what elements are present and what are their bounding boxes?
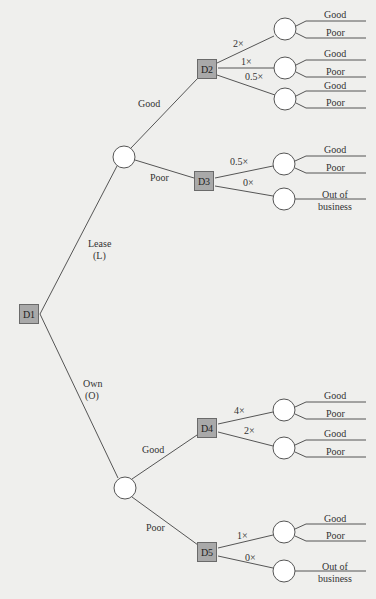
option-label-d5-0x: 0× — [245, 552, 256, 563]
decision-node-d4: D4 — [197, 418, 217, 438]
outcome-label-lease-good: Good — [138, 98, 160, 109]
terminal-label: Good — [324, 390, 346, 401]
option-label-d2-2x: 2× — [233, 38, 244, 49]
terminal-label: Poor — [326, 27, 345, 38]
terminal-label: Poor — [326, 162, 345, 173]
option-label-d4-2x: 2× — [244, 425, 255, 436]
terminal-label: Poor — [326, 97, 345, 108]
chance-node-lease — [113, 146, 135, 168]
option-label-d2-05x: 0.5× — [245, 71, 263, 82]
terminal-label: Out of — [322, 561, 348, 572]
outcome-label-lease-poor: Poor — [150, 172, 169, 183]
branch-label-own-abbr: (O) — [85, 390, 99, 401]
terminal-label: Good — [324, 144, 346, 155]
terminal-label: Poor — [326, 66, 345, 77]
tree-lines — [0, 0, 376, 599]
decision-node-d1: D1 — [19, 304, 39, 324]
terminal-label: Good — [324, 80, 346, 91]
option-label-d4-4x: 4× — [234, 405, 245, 416]
decision-node-d3: D3 — [194, 171, 214, 191]
terminal-label: Good — [324, 428, 346, 439]
terminal-label: Poor — [326, 446, 345, 457]
terminal-label: Good — [324, 9, 346, 20]
option-label-d5-1x: 1× — [237, 530, 248, 541]
branch-label-lease: Lease — [88, 238, 111, 249]
decision-node-d5: D5 — [197, 542, 217, 562]
terminal-label: Good — [324, 513, 346, 524]
outcome-label-own-poor: Poor — [146, 522, 165, 533]
branch-label-own: Own — [83, 378, 102, 389]
terminal-label: Poor — [326, 530, 345, 541]
terminal-label: business — [318, 201, 352, 212]
decision-node-d2: D2 — [197, 59, 217, 79]
terminal-label: Out of — [322, 189, 348, 200]
branch-label-lease-abbr: (L) — [93, 250, 106, 261]
option-label-d2-1x: 1× — [241, 56, 252, 67]
outcome-label-own-good: Good — [142, 444, 164, 455]
terminal-label: Poor — [326, 408, 345, 419]
terminal-label: Good — [324, 48, 346, 59]
chance-node-own — [114, 477, 136, 499]
option-label-d3-0x: 0× — [243, 177, 254, 188]
terminal-label: business — [318, 573, 352, 584]
option-label-d3-05x: 0.5× — [230, 156, 248, 167]
